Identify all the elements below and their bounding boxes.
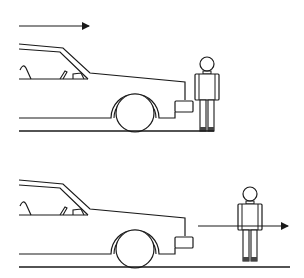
panel-bottom <box>19 180 290 268</box>
pedestrian-figure <box>238 187 262 261</box>
panel-top <box>19 26 219 132</box>
collision-diagram <box>0 0 304 278</box>
car-illustration <box>19 44 193 132</box>
pedestrian-figure <box>195 57 219 131</box>
car-illustration <box>19 180 193 268</box>
